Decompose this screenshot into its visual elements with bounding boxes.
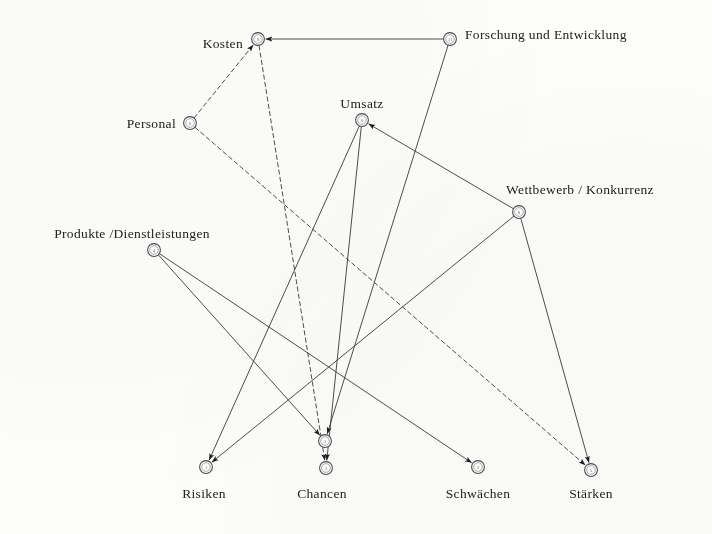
edge-personal-to-staerken [195, 127, 585, 465]
node-personal[interactable]: 6 [184, 117, 197, 130]
node-marker-schwaechen: 2 [477, 465, 479, 470]
node-label-personal: Personal [127, 117, 176, 131]
node-umsatz[interactable]: 6 [356, 114, 369, 127]
node-forschung[interactable]: 11 [444, 33, 457, 46]
node-risiken[interactable]: 1 [200, 461, 213, 474]
edge-umsatz-to-chancen [327, 126, 362, 460]
node-wettbewerb[interactable]: 8 [513, 206, 526, 219]
network-graph: 911668413325 [0, 0, 712, 534]
edge-wettbewerb-to-staerken [521, 218, 589, 463]
node-marker-risiken: 1 [205, 465, 207, 470]
node-label-forschung: Forschung und Entwicklung [465, 28, 627, 42]
edge-wettbewerb-to-umsatz [369, 124, 514, 209]
node-kosten[interactable]: 9 [252, 33, 265, 46]
edge-produkte-to-schwaechen [159, 254, 471, 463]
diagram-canvas: 911668413325 KostenForschung und Entwick… [0, 0, 712, 534]
node-label-risiken: Risiken [182, 487, 226, 501]
node-label-produkte: Produkte /Dienstleistungen [54, 227, 210, 241]
node-label-umsatz: Umsatz [340, 97, 383, 111]
node-label-kosten: Kosten [203, 37, 243, 51]
node-produkte[interactable]: 4 [148, 244, 161, 257]
node-label-wettbewerb: Wettbewerb / Konkurrenz [506, 183, 654, 197]
node-chancen_up[interactable]: 3 [319, 435, 332, 448]
node-label-schwaechen: Schwächen [446, 487, 511, 501]
node-staerken[interactable]: 5 [585, 464, 598, 477]
edge-wettbewerb-to-risiken [212, 216, 514, 462]
edge-kosten-to-chancen [259, 45, 325, 460]
node-schwaechen[interactable]: 2 [472, 461, 485, 474]
node-marker-forschung: 11 [448, 37, 452, 42]
node-chancen[interactable]: 3 [320, 462, 333, 475]
node-label-chancen: Chancen [297, 487, 347, 501]
edge-umsatz-to-risiken [209, 126, 359, 460]
node-label-staerken: Stärken [569, 487, 613, 501]
edge-personal-to-kosten [194, 45, 253, 118]
